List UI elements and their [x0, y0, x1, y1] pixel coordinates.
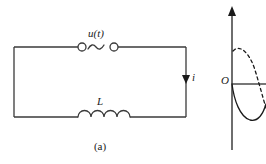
current-label: i: [192, 72, 195, 83]
y-axis-arrow-icon: [228, 6, 236, 16]
plot-group: [228, 6, 266, 150]
source-terminal-right: [110, 43, 118, 51]
figure-container: u(t) L i O (a): [0, 0, 266, 164]
origin-label: O: [221, 75, 229, 86]
inductor-label: L: [97, 96, 103, 107]
current-arrow-icon: [182, 75, 190, 84]
source-terminal-left: [78, 43, 86, 51]
voltage-curve-dashed: [233, 48, 266, 108]
ac-source-sine-icon: [88, 45, 104, 49]
figure-caption: (a): [0, 140, 200, 152]
source-label: u(t): [88, 28, 104, 39]
inductor-coils-icon: [78, 111, 130, 118]
